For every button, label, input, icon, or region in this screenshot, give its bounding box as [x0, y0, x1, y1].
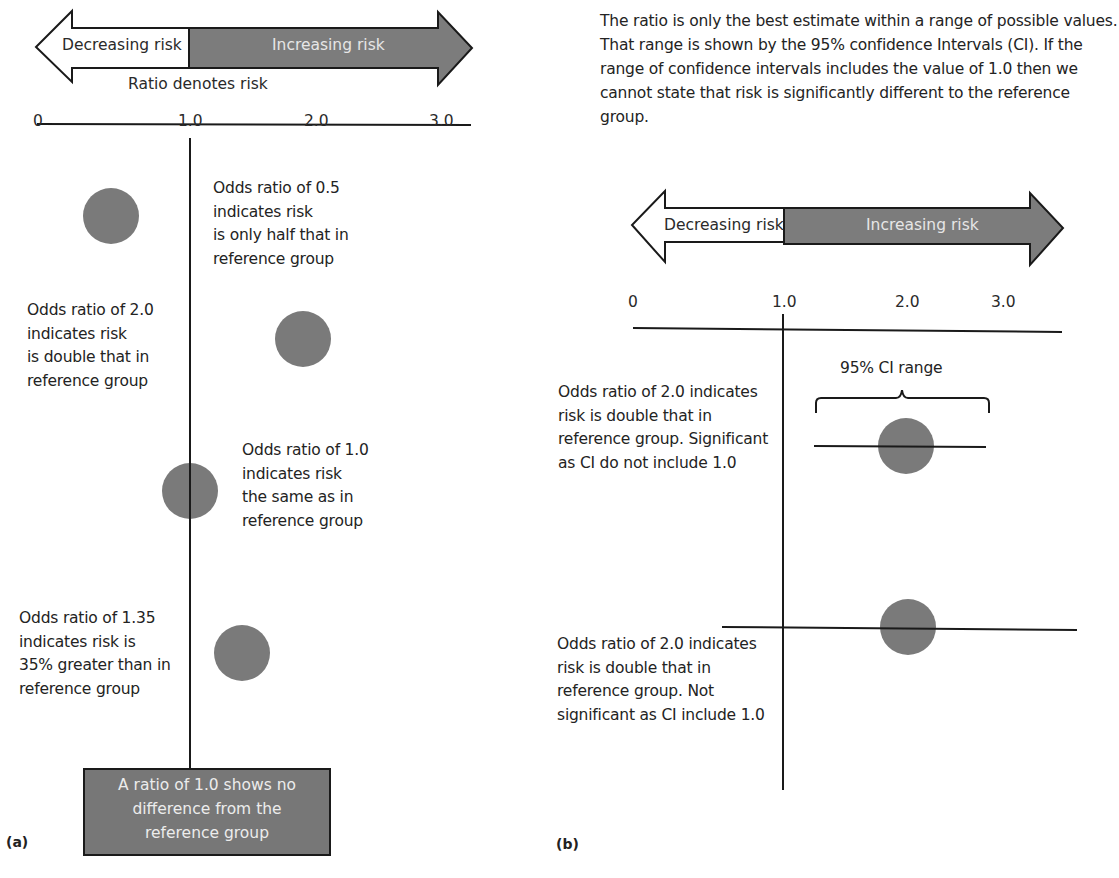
tick-2: 2.0 [304, 112, 329, 130]
annotation-or-1.35: Odds ratio of 1.35 indicates risk is 35%… [19, 607, 171, 701]
panel-a-x-axis [37, 124, 471, 125]
tick-3: 3.0 [429, 112, 454, 130]
tick-b-2: 2.0 [895, 293, 920, 311]
marker-not-significant [880, 599, 936, 655]
tick-1: 1.0 [178, 112, 203, 130]
decreasing-risk-label: Decreasing risk [62, 36, 182, 54]
ci-range-bracket [816, 390, 989, 413]
panel-b-label: (b) [556, 836, 579, 852]
panel-b-x-axis [633, 328, 1062, 332]
tick-b-3: 3.0 [991, 293, 1016, 311]
annotation-or-2.0: Odds ratio of 2.0 indicates risk is doub… [27, 299, 154, 393]
tick-b-1: 1.0 [772, 293, 797, 311]
annotation-not-significant: Odds ratio of 2.0 indicates risk is doub… [557, 633, 765, 727]
decreasing-risk-label-b: Decreasing risk [664, 216, 784, 234]
annotation-or-1.0: Odds ratio of 1.0 indicates risk the sam… [242, 439, 369, 533]
arrow-caption: Ratio denotes risk [128, 75, 268, 93]
annotation-or-0.5: Odds ratio of 0.5 indicates risk is only… [213, 177, 349, 271]
no-difference-note: A ratio of 1.0 shows no difference from … [83, 768, 331, 856]
ci-line-significant [814, 446, 986, 447]
marker-or-1.35 [214, 625, 270, 681]
annotation-significant: Odds ratio of 2.0 indicates risk is doub… [558, 381, 768, 475]
increasing-risk-label-b: Increasing risk [866, 216, 979, 234]
marker-or-2.0 [275, 311, 331, 367]
marker-or-0.5 [83, 188, 139, 244]
tick-0: 0 [33, 112, 43, 130]
tick-b-0: 0 [628, 293, 638, 311]
increasing-risk-label: Increasing risk [272, 36, 385, 54]
ci-explanation-paragraph: The ratio is only the best estimate with… [600, 9, 1117, 129]
ci-range-label: 95% CI range [840, 357, 942, 381]
panel-a-label: (a) [6, 834, 28, 850]
